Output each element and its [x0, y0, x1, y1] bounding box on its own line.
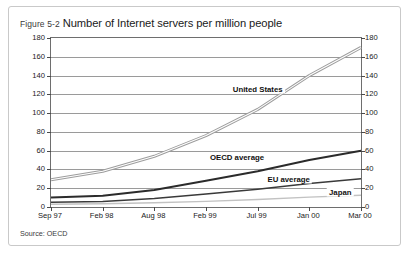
y-tick-label-left: 100 — [23, 109, 45, 117]
y-tick-label-right: 180 — [365, 34, 389, 42]
source-note: Source: OECD — [20, 229, 68, 238]
y-tick-label-right: 120 — [365, 90, 389, 98]
y-tick-label-left: 120 — [23, 90, 45, 98]
y-tick-label-left: 80 — [23, 128, 45, 136]
figure-number: Figure 5-2 — [20, 19, 60, 29]
series-label-united-states: United States — [231, 84, 285, 93]
y-tick-label-right: 100 — [365, 109, 389, 117]
series-lines — [51, 38, 361, 207]
plot-frame: 020406080100120140160180 020406080100120… — [50, 37, 362, 208]
x-tick-label: Aug 98 — [141, 211, 165, 220]
x-tick-label: Sep 97 — [38, 211, 62, 220]
y-tick-label-right: 0 — [365, 203, 389, 211]
y-tick-label-right: 40 — [365, 165, 389, 173]
y-tick-label-right: 20 — [365, 184, 389, 192]
y-tick-label-left: 0 — [23, 203, 45, 211]
y-tick-label-left: 40 — [23, 165, 45, 173]
series-label-japan: Japan — [327, 188, 354, 197]
chart-area: 020406080100120140160180 020406080100120… — [20, 33, 391, 223]
y-tick-label-right: 80 — [365, 128, 389, 136]
series-label-eu-average: EU average — [265, 174, 311, 183]
figure-container: Figure 5-2Number of Internet servers per… — [8, 6, 401, 246]
y-tick-label-right: 160 — [365, 53, 389, 61]
x-tick-label: Jul 99 — [247, 211, 267, 220]
series-label-oecd-average: OECD average — [208, 153, 266, 162]
y-tick-label-left: 60 — [23, 147, 45, 155]
x-tick-label: Feb 98 — [90, 211, 114, 220]
x-tick-label: Mar 00 — [348, 211, 372, 220]
y-tick-label-right: 60 — [365, 147, 389, 155]
y-tick-label-left: 20 — [23, 184, 45, 192]
line-eu-average — [51, 179, 361, 203]
y-tick-label-left: 180 — [23, 34, 45, 42]
page-title: Number of Internet servers per million p… — [63, 17, 282, 29]
y-tick-label-left: 160 — [23, 53, 45, 61]
x-tick-label: Jan 00 — [297, 211, 320, 220]
y-tick-label-left: 140 — [23, 72, 45, 80]
figure-title-row: Figure 5-2Number of Internet servers per… — [20, 13, 282, 31]
x-tick-label: Feb 99 — [193, 211, 217, 220]
line-oecd-average — [51, 151, 361, 198]
y-tick-label-right: 140 — [365, 72, 389, 80]
